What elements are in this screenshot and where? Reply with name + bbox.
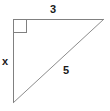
label-top-leg: 3 [50, 3, 56, 15]
label-left-leg: x [2, 55, 8, 67]
right-angle-marker-icon [13, 19, 26, 32]
right-triangle-figure: 3 x 5 [0, 0, 110, 111]
triangle-hypotenuse [13, 19, 104, 103]
label-hypotenuse: 5 [63, 64, 69, 76]
triangle-drawing [0, 0, 110, 111]
